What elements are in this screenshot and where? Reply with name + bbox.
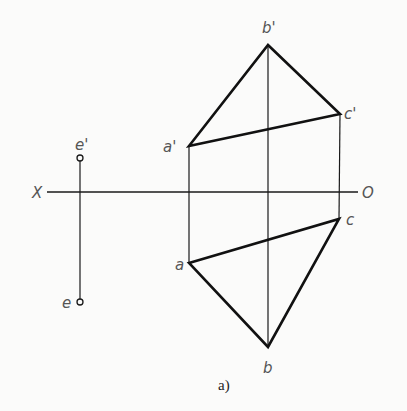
axis-label-o: O (362, 184, 374, 202)
axis-label-x: X (31, 184, 43, 202)
point-e-prime-marker (77, 155, 83, 161)
projection-line-c (339, 114, 340, 219)
label-b-prime: b' (262, 19, 276, 37)
label-b: b (263, 359, 273, 377)
projection-diagram: X O b' c' a' e' c a e b a) (0, 0, 407, 411)
label-a-prime: a' (163, 138, 176, 156)
front-view-triangle (189, 45, 340, 146)
figure-caption: a) (218, 377, 230, 394)
label-a: a (175, 256, 184, 274)
label-c-prime: c' (344, 105, 356, 123)
top-view-triangle (189, 219, 339, 347)
label-c: c (346, 211, 355, 229)
label-e-prime: e' (75, 136, 88, 154)
label-e: e (62, 294, 71, 312)
point-e-marker (77, 299, 83, 305)
